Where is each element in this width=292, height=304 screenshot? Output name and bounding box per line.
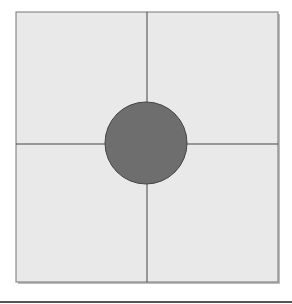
- quadrant-diagram: [0, 0, 292, 304]
- bottom-rule: [0, 301, 292, 303]
- center-circle: [105, 102, 187, 184]
